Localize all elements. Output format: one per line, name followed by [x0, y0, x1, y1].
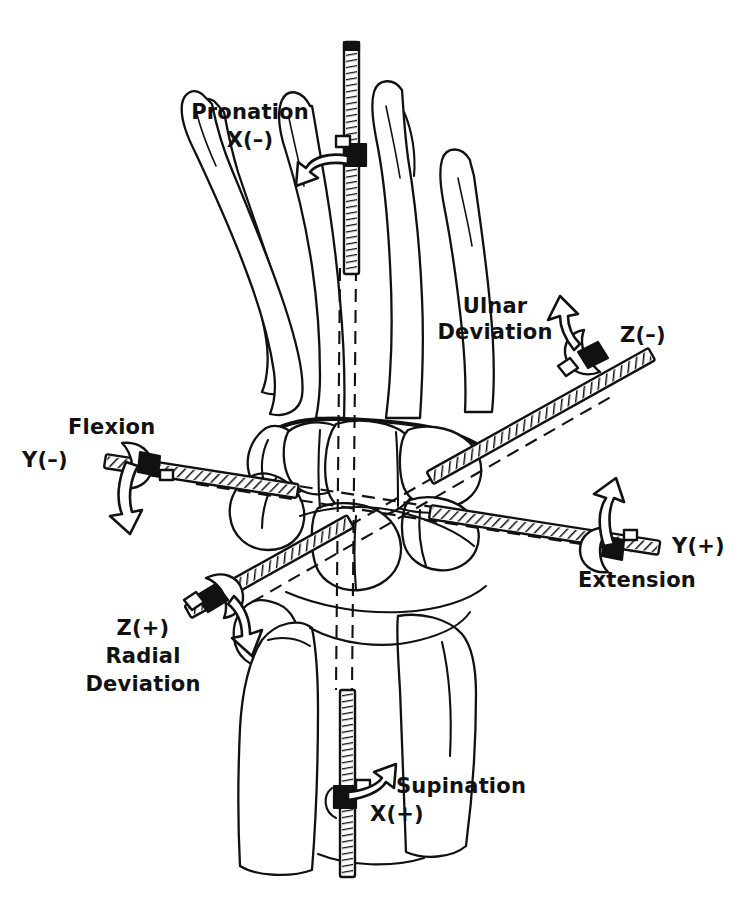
extension-sign-label: Y(+)	[672, 534, 725, 559]
ulnar-deviation-motion-label-line2: Deviation	[420, 320, 570, 345]
extension-rotation-indicator	[580, 478, 637, 572]
radiocarpal-joint-line	[286, 586, 486, 612]
forearm-bones	[239, 612, 477, 875]
extension-motion-label: Extension	[578, 568, 696, 593]
x-axis-rod-upper-cap	[344, 42, 359, 50]
ulnar-deviation-sign-label: Z(–)	[620, 323, 666, 348]
x-axis-rod-lower-hatch	[342, 692, 353, 875]
supination-motion-label: Supination	[396, 774, 526, 799]
metacarpal-5-bone	[440, 150, 493, 413]
pronation-motion-label: Pronation	[170, 100, 330, 125]
radial-deviation-sign-label: Z(+)	[68, 616, 218, 641]
wrist-coordinate-system-figure: Pronation X(–) Ulnar Deviation Z(–) Flex…	[0, 0, 748, 903]
z-axis-rod-upper-segment	[427, 348, 656, 484]
pronation-collar-tab	[336, 136, 350, 147]
skeleton-and-axes-drawing	[0, 0, 748, 903]
flexion-collar-block	[138, 452, 160, 476]
flexion-motion-label: Flexion	[68, 415, 155, 440]
radial-deviation-motion-label-line2: Deviation	[68, 672, 218, 697]
metacarpal-4-bone	[372, 81, 422, 418]
flexion-sign-label: Y(–)	[22, 448, 68, 473]
supination-sign-label: X(+)	[370, 802, 424, 827]
flexion-collar-tab	[160, 470, 173, 480]
pronation-sign-label: X(–)	[170, 128, 330, 153]
ulnar-deviation-motion-label-line1: Ulnar	[420, 294, 570, 319]
radial-deviation-motion-label-line1: Radial	[68, 644, 218, 669]
forearm-distal-edge	[318, 854, 424, 864]
extension-collar-tab	[624, 530, 637, 540]
